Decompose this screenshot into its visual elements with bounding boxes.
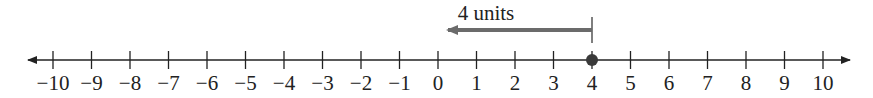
tick-label: −2 [350,71,372,95]
tick-label: −4 [273,71,296,95]
tick-label: −9 [80,71,102,95]
distance-label: 4 units [458,1,515,25]
tick-marks: −10−9−8−7−6−5−4−3−2−1012345678910 [37,51,834,95]
tick-label: 8 [741,71,752,95]
tick-label: 10 [813,71,834,95]
tick-label: −6 [196,71,218,95]
tick-label: −7 [157,71,179,95]
tick-label: 9 [779,71,790,95]
tick-label: 0 [433,71,444,95]
tick-label: 2 [510,71,521,95]
highlighted-point [586,54,598,66]
tick-label: −10 [37,71,70,95]
tick-label: −1 [388,71,410,95]
tick-label: 1 [471,71,482,95]
tick-label: −3 [311,71,333,95]
tick-label: 3 [548,71,559,95]
tick-label: 7 [702,71,713,95]
tick-label: 6 [664,71,675,95]
distance-arrow: 4 units [448,1,592,43]
number-line: −10−9−8−7−6−5−4−3−2−1012345678910 4 unit… [0,0,873,98]
tick-label: 5 [625,71,636,95]
tick-label: −5 [234,71,256,95]
tick-label: −8 [119,71,141,95]
tick-label: 4 [587,71,598,95]
